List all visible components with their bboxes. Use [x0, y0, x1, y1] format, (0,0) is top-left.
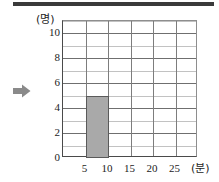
x-tick-label-25: 25 — [163, 163, 187, 174]
gridline-v-25 — [176, 21, 177, 156]
gridline-v-20 — [153, 21, 154, 156]
histogram-chart: (명) (분) 0246810 510152025 — [0, 0, 219, 182]
plot-area — [62, 20, 197, 157]
gridline-v-15 — [131, 21, 132, 156]
x-tick-label-5: 5 — [73, 163, 97, 174]
x-tick-label-15: 15 — [118, 163, 142, 174]
x-tick-label-10: 10 — [95, 163, 119, 174]
bar-5-10 — [86, 96, 109, 158]
figure-root: (명) (분) 0246810 510152025 — [0, 0, 219, 182]
x-tick-label-20: 20 — [140, 163, 164, 174]
